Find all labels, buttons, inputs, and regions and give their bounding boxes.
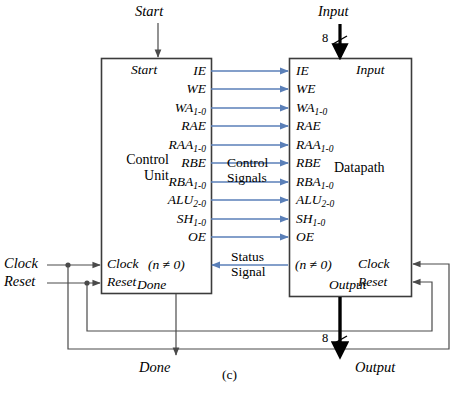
dp-signal-raa: RAA1-0 — [296, 138, 333, 152]
dp-signal-rae: RAE — [296, 119, 321, 133]
cu-signal-rae: RAE — [120, 119, 206, 133]
cu-port-done: Done — [137, 278, 166, 292]
status-signal-line2: Signal — [231, 264, 266, 279]
cu-signal-wa: WA1-0 — [120, 101, 206, 115]
datapath-name: Datapath — [334, 160, 385, 176]
cu-signal-alu: ALU2-0 — [120, 193, 206, 207]
external-input-label: Input — [318, 4, 349, 19]
block-diagram-figure: Start Input 8 Clock Reset Done Output 8 … — [0, 0, 463, 395]
control-signal-wires — [211, 71, 288, 237]
control-signals-net-label: Control Signals — [227, 155, 268, 185]
external-done-label: Done — [139, 360, 170, 375]
control-signals-line1: Control — [227, 155, 268, 170]
control-signals-line2: Signals — [227, 170, 268, 185]
cu-signal-we: WE — [120, 82, 206, 96]
dp-signal-oe: OE — [296, 230, 314, 244]
cu-port-reset: Reset — [107, 275, 136, 289]
dp-port-status: (n ≠ 0) — [295, 258, 332, 272]
cu-signal-oe: OE — [120, 230, 206, 244]
dp-signal-alu: ALU2-0 — [296, 193, 334, 207]
dp-signal-we: WE — [296, 82, 316, 96]
cu-port-status: (n ≠ 0) — [148, 258, 185, 272]
dp-signal-rbe: RBE — [296, 156, 321, 170]
cu-signal-rbe: RBE — [120, 156, 206, 170]
wire-layer — [0, 0, 463, 395]
dp-signal-ie: IE — [296, 64, 309, 78]
dp-signal-wa: WA1-0 — [296, 101, 327, 115]
cu-signal-rba: RBA1-0 — [120, 175, 206, 189]
external-output-label: Output — [355, 360, 395, 375]
status-signal-net-label: Status Signal — [231, 249, 266, 279]
dp-signal-rba: RBA1-0 — [296, 175, 333, 189]
dp-port-input: Input — [356, 63, 385, 77]
output-bus-width-label: 8 — [322, 332, 328, 345]
input-bus-width-label: 8 — [322, 32, 328, 45]
dp-signal-sh: SH1-0 — [296, 212, 325, 226]
reset-junction-dot — [84, 280, 89, 285]
cu-signal-ie: IE — [120, 64, 206, 78]
dp-port-output: Output — [329, 278, 367, 292]
external-clock-label: Clock — [4, 256, 38, 271]
clock-junction-dot — [65, 262, 70, 267]
dp-port-clock: Clock — [358, 257, 390, 271]
figure-caption: (c) — [222, 368, 237, 382]
cu-signal-sh: SH1-0 — [120, 212, 206, 226]
cu-port-clock: Clock — [107, 257, 139, 271]
status-signal-line1: Status — [231, 249, 266, 264]
external-reset-label: Reset — [4, 274, 35, 289]
external-start-label: Start — [135, 4, 163, 19]
cu-signal-raa: RAA1-0 — [120, 138, 206, 152]
